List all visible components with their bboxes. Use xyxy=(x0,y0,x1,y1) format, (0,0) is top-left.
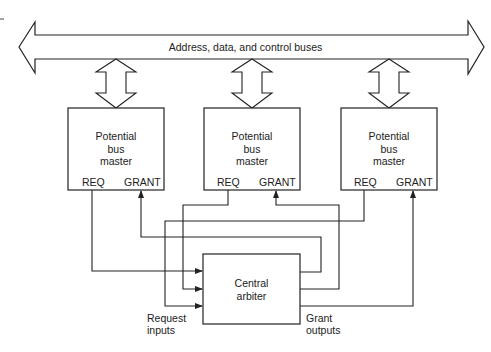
title-line: Potential xyxy=(204,130,300,143)
title-line: master xyxy=(341,155,437,168)
title-line: bus xyxy=(341,143,437,156)
grant-label-1: GRANT xyxy=(124,176,161,188)
title-line: Potential xyxy=(341,130,437,143)
bus-master-title-1: Potential bus master xyxy=(68,130,164,168)
title-line: bus xyxy=(204,143,300,156)
bus-connector-3 xyxy=(369,59,409,108)
title-line: arbiter xyxy=(203,290,300,303)
title-line: bus xyxy=(68,143,164,156)
grant-label-2: GRANT xyxy=(259,176,296,188)
grant-outputs-label: Grant outputs xyxy=(306,312,340,336)
req-label-1: REQ xyxy=(82,176,105,188)
title-line: master xyxy=(68,155,164,168)
req-label-2: REQ xyxy=(217,176,240,188)
title-line: Central xyxy=(203,277,300,290)
label-line: Grant xyxy=(306,312,340,324)
req-line-1 xyxy=(92,190,202,271)
label-line: Request xyxy=(147,312,186,324)
req-label-3: REQ xyxy=(354,176,377,188)
bus-connector-1 xyxy=(96,59,136,108)
bus-master-title-2: Potential bus master xyxy=(204,130,300,168)
label-line: inputs xyxy=(147,324,186,336)
label-line: outputs xyxy=(306,324,340,336)
request-inputs-label: Request inputs xyxy=(147,312,186,336)
bus-connector-2 xyxy=(232,59,272,108)
central-arbiter-title: Central arbiter xyxy=(203,277,300,302)
grant-label-3: GRANT xyxy=(396,176,433,188)
bus-label: Address, data, and control buses xyxy=(0,41,491,53)
title-line: master xyxy=(204,155,300,168)
bus-master-title-3: Potential bus master xyxy=(341,130,437,168)
title-line: Potential xyxy=(68,130,164,143)
